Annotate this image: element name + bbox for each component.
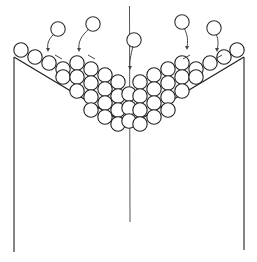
packed-particles — [14, 43, 244, 131]
packed-particle — [161, 62, 175, 76]
trajectory-arrow — [216, 34, 218, 50]
falling-particle — [51, 22, 65, 36]
packed-particle — [98, 68, 112, 82]
packed-particle — [147, 82, 161, 96]
packed-particle — [161, 76, 175, 90]
packed-particle — [84, 62, 98, 76]
impact-mark — [55, 55, 62, 59]
packed-particle — [175, 84, 189, 98]
packed-particle — [28, 50, 42, 64]
packed-particle — [147, 110, 161, 124]
impact-mark — [88, 55, 95, 59]
packed-particle — [133, 117, 147, 131]
packed-particle — [70, 70, 84, 84]
packed-particle — [189, 70, 203, 84]
arrowhead-icon — [215, 48, 219, 52]
packed-particle — [147, 68, 161, 82]
packed-particle — [161, 90, 175, 104]
packed-particle — [230, 43, 244, 57]
falling-particle — [127, 33, 141, 47]
packed-particle — [175, 70, 189, 84]
packed-particle — [70, 84, 84, 98]
packed-particle — [133, 103, 147, 117]
arrowhead-icon — [185, 46, 189, 50]
trajectory-arrow — [184, 28, 188, 48]
packed-particle — [203, 56, 217, 70]
packed-particle — [84, 90, 98, 104]
packed-particle — [56, 70, 70, 84]
arrowhead-icon — [77, 48, 81, 52]
falling-particle — [175, 15, 189, 29]
packed-particle — [98, 110, 112, 124]
packed-particle — [84, 103, 98, 117]
packed-particle — [14, 43, 28, 57]
packed-particle — [133, 75, 147, 89]
packed-particle — [98, 96, 112, 110]
packed-particle — [42, 56, 56, 70]
arrowhead-icon — [46, 48, 50, 52]
packed-particle — [70, 56, 84, 70]
arrowhead-icon — [128, 66, 132, 70]
trajectory-arrow — [48, 34, 54, 50]
trajectory-arrow — [130, 46, 133, 68]
packed-particle — [161, 103, 175, 117]
trajectory-arrow — [79, 29, 89, 50]
packed-particle — [147, 96, 161, 110]
packed-particle — [133, 89, 147, 103]
falling-particle — [207, 21, 221, 35]
falling-particle — [86, 17, 100, 31]
packed-particle — [84, 76, 98, 90]
packed-particle — [98, 82, 112, 96]
packed-particle — [175, 56, 189, 70]
packed-particle — [111, 75, 125, 89]
hopper-diagram — [0, 0, 257, 262]
